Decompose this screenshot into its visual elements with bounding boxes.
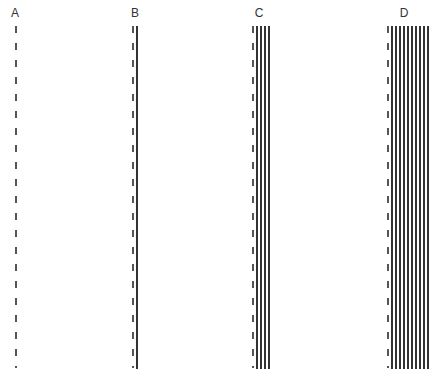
dashed-line [132, 26, 134, 368]
solid-line [391, 26, 393, 369]
solid-line [395, 26, 397, 369]
panel-label-b: B [131, 6, 139, 20]
solid-line [403, 26, 405, 369]
dashed-line [387, 26, 389, 368]
panel-label-c: C [255, 6, 264, 20]
solid-line [419, 26, 421, 369]
solid-line [136, 26, 138, 369]
panel-label-d: D [400, 6, 409, 20]
solid-line [260, 26, 262, 369]
solid-line [427, 26, 429, 369]
dashed-line [15, 26, 17, 368]
solid-line [411, 26, 413, 369]
solid-line [399, 26, 401, 369]
solid-line [268, 26, 270, 369]
solid-line [256, 26, 258, 369]
solid-line [407, 26, 409, 369]
solid-line [264, 26, 266, 369]
panel-label-a: A [11, 6, 19, 20]
solid-line [415, 26, 417, 369]
dashed-line [252, 26, 254, 368]
solid-line [423, 26, 425, 369]
